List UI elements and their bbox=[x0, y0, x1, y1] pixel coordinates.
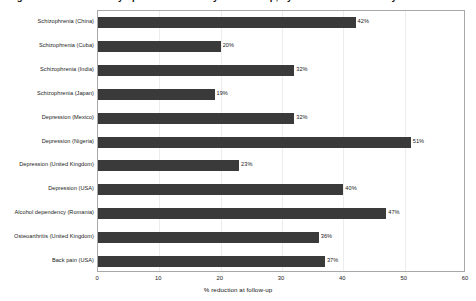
y-axis-label: Schizophrenia (India) bbox=[2, 66, 94, 73]
y-axis-label: Schizophrenia (Japan) bbox=[2, 90, 94, 97]
bar-value-label: 36% bbox=[321, 233, 332, 240]
chart-title: Figure 1. Reduction in symptoms or disab… bbox=[8, 0, 397, 2]
y-axis-label: Schizophrenia (Cuba) bbox=[2, 42, 94, 49]
bar-value-label: 42% bbox=[358, 18, 369, 25]
bar-value-label: 32% bbox=[296, 114, 307, 121]
y-axis-category-labels: Schizophrenia (China)Schizophrenia (Cuba… bbox=[0, 10, 94, 272]
x-axis-tick-label: 60 bbox=[462, 275, 468, 282]
bar-value-label: 40% bbox=[345, 185, 356, 192]
x-axis-tick-label: 40 bbox=[339, 275, 345, 282]
bar-value-label: 51% bbox=[413, 138, 424, 145]
y-axis-label: Depression (United Kingdom) bbox=[2, 161, 94, 168]
y-axis-label: Back pain (USA) bbox=[2, 257, 94, 264]
bar-chart-figure: Figure 1. Reduction in symptoms or disab… bbox=[0, 0, 476, 301]
x-axis-ticks: 0102030405060 bbox=[0, 272, 476, 286]
bar-value-label: 20% bbox=[223, 42, 234, 49]
x-axis-tick-label: 20 bbox=[216, 275, 222, 282]
bar-value-label: 19% bbox=[217, 90, 228, 97]
bar-value-labels: 42%20%32%19%32%51%23%40%47%36%37% bbox=[97, 10, 476, 272]
x-axis-tick-label: 30 bbox=[278, 275, 284, 282]
bar-value-label: 47% bbox=[388, 209, 399, 216]
y-axis-label: Alcohol dependency (Romania) bbox=[2, 209, 94, 216]
x-axis-tick-label: 10 bbox=[155, 275, 161, 282]
x-axis-title: % reduction at follow-up bbox=[0, 286, 476, 294]
y-axis-label: Schizophrenia (China) bbox=[2, 18, 94, 25]
y-axis-label: Depression (USA) bbox=[2, 185, 94, 192]
y-axis-label: Depression (Nigeria) bbox=[2, 138, 94, 145]
bar-value-label: 37% bbox=[327, 257, 338, 264]
y-axis-label: Osteoarthritis (United Kingdom) bbox=[2, 233, 94, 240]
y-axis-label: Depression (Mexico) bbox=[2, 114, 94, 121]
bar-value-label: 23% bbox=[241, 161, 252, 168]
x-axis-tick-label: 0 bbox=[95, 275, 98, 282]
x-axis-tick-label: 50 bbox=[400, 275, 406, 282]
bar-value-label: 32% bbox=[296, 66, 307, 73]
